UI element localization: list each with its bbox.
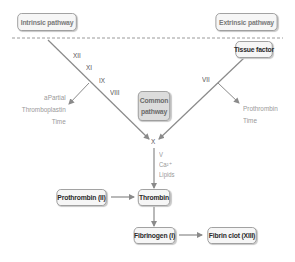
- aptt-line3: Time: [22, 116, 66, 128]
- factor-xii-label: XII: [73, 51, 81, 60]
- extrinsic-pathway-label: Extrinsic pathway: [219, 18, 274, 27]
- pt-line1: Prothrombin: [243, 103, 278, 115]
- pt-branch-arrow: [218, 83, 239, 103]
- aptt-line2: Thromboplastin: [22, 104, 66, 116]
- fibrin-clot-label: Fibrin clot (XIII): [209, 231, 255, 240]
- factor-ix-label: IX: [99, 76, 105, 85]
- aptt-label: aPartial Thromboplastin Time: [22, 92, 66, 128]
- factor-viii-label: VIII: [110, 88, 120, 97]
- intrinsic-pathway-box: Intrinsic pathway: [17, 13, 77, 31]
- fibrin-clot-box: Fibrin clot (XIII): [207, 227, 256, 244]
- common-pathway-line2: pathway: [141, 106, 167, 117]
- cofactor-v: V: [159, 150, 175, 160]
- aptt-branch-arrow: [69, 83, 89, 104]
- pt-line2: Time: [243, 115, 278, 127]
- cofactors-label: V Ca²⁺ Lipids: [159, 150, 175, 180]
- tissue-factor-box: Tissue factor: [235, 41, 272, 58]
- thrombin-box: Thrombin: [138, 189, 170, 206]
- thrombin-label: Thrombin: [139, 193, 169, 202]
- fibrinogen-label: Fibrinogen (I): [134, 231, 175, 240]
- connector-lines: [0, 0, 295, 262]
- prothrombin-label: Prothrombin (II): [57, 193, 105, 202]
- intrinsic-pathway-label: Intrinsic pathway: [21, 18, 74, 27]
- fibrinogen-box: Fibrinogen (I): [134, 227, 176, 244]
- tissue-factor-label: Tissue factor: [234, 45, 274, 54]
- common-pathway-box: Common pathway: [138, 91, 170, 121]
- factor-xi-label: XI: [86, 63, 92, 72]
- prothrombin-box: Prothrombin (II): [56, 189, 106, 206]
- common-pathway-line1: Common: [140, 95, 168, 106]
- factor-x-label: X: [151, 137, 155, 146]
- extrinsic-arrow: [159, 58, 244, 139]
- extrinsic-pathway-box: Extrinsic pathway: [215, 13, 277, 31]
- pt-label: Prothrombin Time: [243, 103, 278, 127]
- aptt-line1: aPartial: [22, 92, 66, 104]
- cofactor-calcium: Ca²⁺: [159, 160, 175, 170]
- cofactor-lipids: Lipids: [159, 170, 175, 180]
- coagulation-cascade-diagram: Intrinsic pathway Extrinsic pathway Tiss…: [0, 0, 295, 262]
- factor-vii-label: VII: [202, 75, 210, 84]
